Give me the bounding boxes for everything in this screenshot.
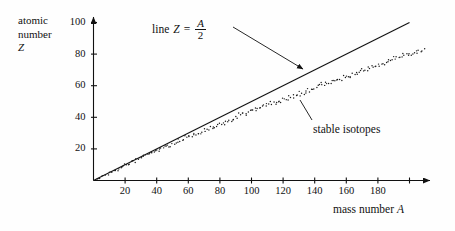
isotope-dot <box>293 94 294 95</box>
isotope-dot <box>367 66 368 67</box>
isotope-dot <box>321 84 322 85</box>
isotope-dot <box>188 136 189 137</box>
isotope-dot <box>318 85 319 86</box>
isotope-dot <box>367 70 368 71</box>
isotope-dot <box>284 98 285 99</box>
isotope-dot <box>184 135 185 136</box>
isotope-dot <box>179 141 180 142</box>
isotope-dot <box>105 174 106 175</box>
isotope-dot <box>375 66 376 67</box>
isotope-dot <box>159 148 160 149</box>
isotopes-annotation-leader <box>300 100 312 120</box>
isotope-dot <box>288 95 289 96</box>
isotope-dot <box>358 72 359 73</box>
isotope-dot <box>337 79 338 80</box>
isotope-dot <box>402 53 403 54</box>
isotope-dot <box>122 166 123 167</box>
isotope-dot <box>328 83 329 84</box>
isotope-dot <box>143 155 144 156</box>
isotope-dot <box>169 146 170 147</box>
isotope-dot <box>386 62 387 63</box>
isotope-dot <box>177 138 178 139</box>
line-equation-annotation: line Z = A 2 <box>152 18 207 41</box>
isotope-dot <box>416 50 417 51</box>
isotope-dot <box>293 97 294 98</box>
isotope-dot <box>414 52 415 53</box>
isotope-dot <box>138 159 139 160</box>
x-axis-title-symbol: A <box>397 203 404 215</box>
line-label-equals: = <box>184 23 191 36</box>
isotope-dot <box>139 157 140 158</box>
isotope-dot <box>200 133 201 134</box>
isotope-dot <box>132 160 133 161</box>
isotope-dot <box>186 136 187 137</box>
isotope-dot <box>212 128 213 129</box>
isotope-dot <box>417 50 418 51</box>
isotope-dot <box>348 76 349 77</box>
axes-group <box>90 17 430 184</box>
isotope-dot <box>349 77 350 78</box>
isotope-dot <box>361 68 362 69</box>
isotope-dot <box>276 102 277 103</box>
isotope-dot <box>305 92 306 93</box>
isotope-dot <box>240 114 241 115</box>
isotope-dot <box>421 50 422 51</box>
isotope-dot <box>282 97 283 98</box>
isotope-dot <box>313 88 314 89</box>
isotope-dot <box>225 120 226 121</box>
isotope-dot <box>334 80 335 81</box>
isotope-dot <box>198 133 199 134</box>
z-equals-a-over-2-line <box>94 23 410 181</box>
isotope-dot <box>252 109 253 110</box>
isotope-dot <box>262 105 263 106</box>
isotope-dot <box>326 83 327 84</box>
isotope-dot <box>354 74 355 75</box>
isotope-dot <box>273 101 274 102</box>
isotope-dot <box>154 151 155 152</box>
isotope-dot <box>403 55 404 56</box>
isotope-dot <box>325 82 326 83</box>
isotope-dot <box>268 103 269 104</box>
isotope-dot <box>384 64 385 65</box>
isotope-dot <box>304 94 305 95</box>
isotope-dot <box>228 120 229 121</box>
isotope-dot <box>126 164 127 165</box>
isotope-dot <box>320 82 321 83</box>
isotope-dot <box>195 134 196 135</box>
isotope-dot <box>339 79 340 80</box>
isotope-dot <box>97 178 98 179</box>
isotope-dot <box>412 53 413 54</box>
isotope-dot <box>411 55 412 56</box>
isotope-dot <box>401 56 402 57</box>
stable-isotopes-scatter <box>96 48 425 180</box>
line-label-prefix: line <box>152 23 169 36</box>
y-tick-label: 40 <box>46 111 86 122</box>
y-tick-label: 100 <box>46 16 86 27</box>
isotope-dot <box>166 145 167 146</box>
isotope-dot <box>193 133 194 134</box>
isotope-dot <box>236 118 237 119</box>
isotope-dot <box>378 63 379 64</box>
isotope-dot <box>394 58 395 59</box>
isotope-dot <box>214 127 215 128</box>
fraction-a-over-2: A 2 <box>195 18 206 41</box>
isotope-dot <box>147 154 148 155</box>
isotope-dot <box>324 85 325 86</box>
isotope-chart-figure: atomic number Z mass number A line Z = A… <box>0 0 455 231</box>
isotope-dot <box>219 123 220 124</box>
isotope-dot <box>330 83 331 84</box>
isotope-dot <box>174 144 175 145</box>
isotope-dot <box>393 56 394 57</box>
isotope-dot <box>278 100 279 101</box>
isotope-dot <box>395 56 396 57</box>
isotope-dot <box>305 90 306 91</box>
isotope-dot <box>346 75 347 76</box>
isotope-dot <box>416 53 417 54</box>
isotope-dot <box>124 163 125 164</box>
isotope-dot <box>193 134 194 135</box>
isotope-dot <box>399 57 400 58</box>
isotope-dot <box>356 72 357 73</box>
isotope-dot <box>204 128 205 129</box>
isotope-dot <box>312 89 313 90</box>
isotope-dot <box>145 154 146 155</box>
